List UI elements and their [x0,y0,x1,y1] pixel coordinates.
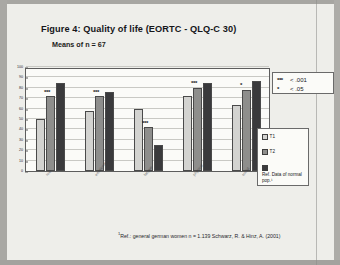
bar-group: *** [75,69,124,171]
y-axis-tick-label: 20 [19,149,23,153]
bar-chart-plot-area: ************* [25,68,270,172]
y-axis-tick-label: 40 [19,129,23,133]
y-axis-tick-label: 10 [19,160,23,164]
y-axis-tick-mark [25,68,28,69]
legend-label: T1 [270,134,275,140]
legend-swatch [262,134,268,140]
y-axis-tick-label: 100 [17,66,23,70]
significance-key-row: ***< .001 [277,77,307,83]
y-axis-tick-label: 70 [19,97,23,101]
bar [232,105,241,171]
significance-marker: *** [191,80,197,86]
bar [193,88,202,171]
y-axis-tick-label: 80 [19,87,23,91]
bar [134,109,143,171]
y-axis-tick-mark [25,120,28,121]
footnote-text: Ref.: general german women n = 1.139 Sch… [120,233,280,239]
significance-marker: *** [44,89,50,95]
bar [105,92,114,171]
figure-footnote: 1Ref.: general german women n = 1.139 Sc… [118,231,280,239]
bar-group: *** [173,69,222,171]
y-axis-tick-mark [25,99,28,100]
bar [203,83,212,171]
y-axis-tick-label: 90 [19,77,23,81]
bar-group: *** [26,69,75,171]
bar [56,83,65,171]
legend-item: T2 [262,149,306,156]
y-axis-tick-mark [25,109,28,110]
y-axis-tick-label: 60 [19,108,23,112]
bar [242,90,251,171]
legend-label: Ref. Data of normal pop.¹ [262,172,306,183]
x-axis-category-label: role [46,170,53,177]
bar [154,145,163,171]
legend-item: T1 [262,134,306,141]
y-axis-tick-mark [25,161,28,162]
scanned-page: Figure 4: Quality of life (EORTC - QLQ-C… [0,0,340,265]
significance-key-row: *< .05 [277,86,304,92]
significance-key: ***< .001*< .05 [272,72,334,94]
significance-key-stars: *** [277,77,290,83]
significance-marker: *** [93,89,99,95]
y-axis-tick-label: 50 [19,118,23,122]
bar [85,111,94,171]
figure-title: Figure 4: Quality of life (EORTC - QLQ-C… [41,24,301,34]
page-edge-left [0,0,7,265]
legend-label: T2 [270,149,275,155]
significance-marker: *** [142,120,148,126]
legend-swatch [262,149,268,155]
bar [144,127,153,171]
page-edge-right [334,0,340,265]
bar [36,119,45,171]
bar-group: *** [124,69,173,171]
y-axis-tick-mark [25,88,28,89]
y-axis-tick-mark [25,172,28,173]
significance-key-stars: * [277,86,290,92]
bar [46,96,55,171]
significance-key-threshold: < .001 [290,77,307,83]
y-axis-tick-label: 30 [19,139,23,143]
bar [95,96,104,171]
page-edge-top [0,0,340,4]
gridline [26,66,269,67]
significance-key-threshold: < .05 [290,86,304,92]
figure-subtitle: Means of n = 67 [52,40,106,49]
significance-marker: * [240,82,242,88]
chart-legend: T1T2Ref. Data of normal pop.¹ [257,128,309,186]
y-axis-tick-mark [25,130,28,131]
page-fold-line [316,0,317,265]
y-axis-tick-mark [25,151,28,152]
bar [183,96,192,171]
y-axis-tick-mark [25,78,28,79]
y-axis-tick-label: 0 [21,170,23,174]
y-axis-tick-mark [25,140,28,141]
legend-swatch [262,165,268,171]
legend-item: Ref. Data of normal pop.¹ [262,165,306,184]
page-edge-bottom [0,260,340,265]
